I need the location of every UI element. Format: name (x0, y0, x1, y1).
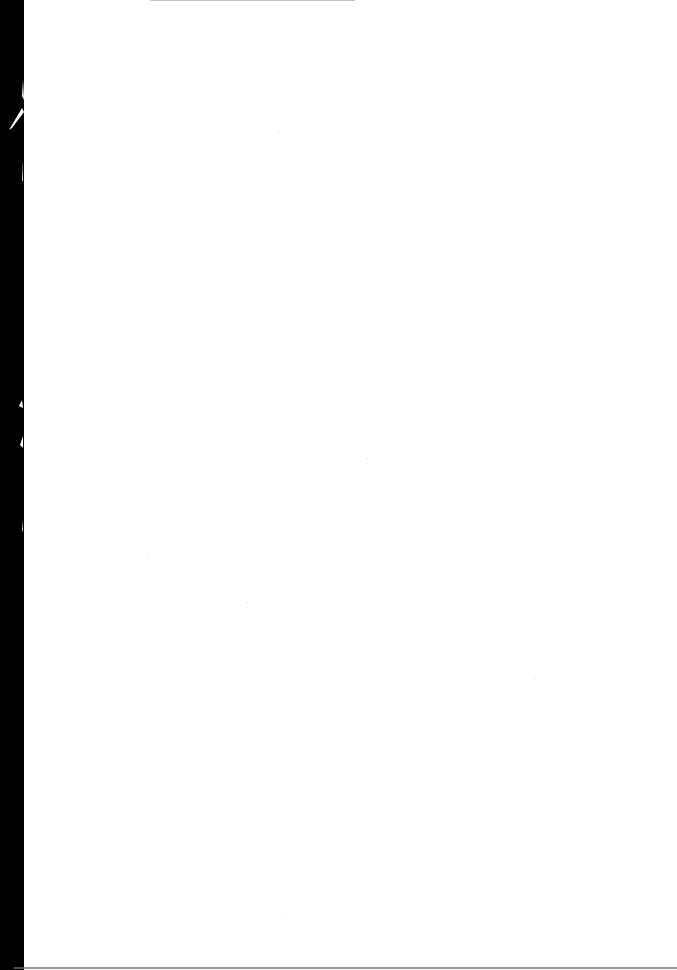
dust-speck (278, 131, 279, 132)
scratch-marks-icon (0, 0, 24, 970)
scan-bottom-edge-line (14, 967, 677, 969)
scanner-left-edge (0, 0, 24, 970)
dust-speck (147, 556, 148, 557)
blank-page-sheet (24, 1, 677, 967)
scan-top-edge-line (150, 0, 355, 1)
dust-speck (534, 678, 535, 679)
dust-speck (367, 458, 368, 459)
dust-speck (282, 917, 283, 918)
dust-speck (247, 602, 248, 603)
scanned-page (0, 0, 677, 970)
